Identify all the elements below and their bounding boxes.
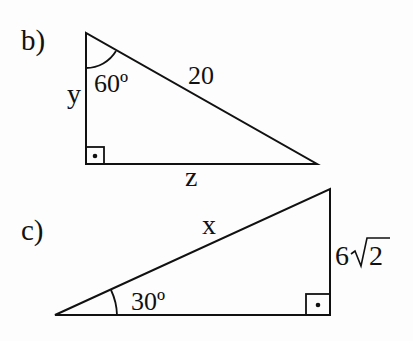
problem-label-c: c) (21, 214, 44, 247)
hypotenuse-label-20: 20 (188, 61, 214, 90)
side-label-z: z (185, 161, 197, 192)
triangle-c-outline (55, 189, 330, 315)
radicand-2: 2 (369, 240, 383, 271)
angle-label-30: 30º (131, 287, 165, 316)
side-label-6-root-2: 6 2 (335, 238, 390, 271)
right-angle-dot-c (316, 303, 321, 308)
angle-arc-30 (111, 290, 117, 315)
angle-arc-60 (86, 51, 116, 68)
coefficient-6: 6 (335, 240, 349, 271)
diagram-canvas: b) 60º 20 y z c) x 30º 6 2 (0, 0, 413, 341)
right-angle-dot-b (93, 154, 98, 159)
hypotenuse-label-x: x (202, 209, 216, 240)
angle-label-60: 60º (94, 69, 128, 98)
problem-label-b: b) (21, 24, 45, 57)
side-label-y: y (67, 78, 81, 109)
triangle-b (86, 33, 317, 164)
triangle-b-outline (86, 33, 317, 164)
triangle-c (55, 189, 330, 315)
